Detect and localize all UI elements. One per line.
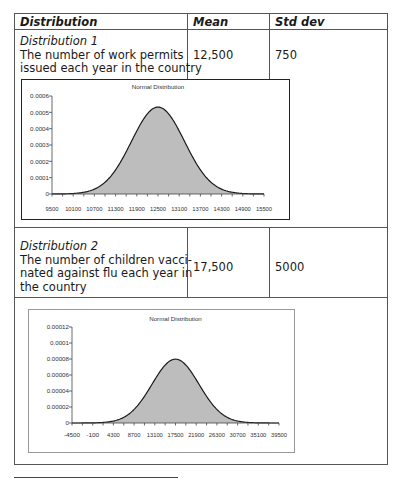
x-tick-label: -4500	[64, 431, 81, 438]
header-distribution: Distribution	[20, 15, 97, 29]
x-tick-label: -100	[86, 431, 99, 438]
header-mean: Mean	[193, 15, 228, 29]
distribution-area	[52, 107, 264, 194]
x-tick-label: 11300	[108, 205, 125, 212]
y-tick-label: 0.0003	[30, 141, 49, 148]
x-tick-label: 13700	[192, 205, 209, 212]
row-1-description: Distribution 1 The number of work permit…	[20, 35, 202, 76]
row-1-mean: 12,500	[193, 49, 233, 63]
row-divider	[15, 297, 387, 298]
x-tick-label: 11900	[129, 205, 146, 212]
x-tick-label: 14900	[235, 205, 252, 212]
y-tick-label: 0.00008	[47, 355, 70, 362]
normal-distribution-chart-1: Normal Distribution00.00010.00020.00030.…	[21, 79, 290, 220]
y-tick-label: 0.0002	[30, 158, 49, 165]
x-tick-label: 14300	[214, 205, 231, 212]
normal-distribution-chart-2: Normal Distribution00.000020.000040.0000…	[28, 309, 295, 453]
row-2-name: Distribution 2	[20, 239, 98, 253]
row-2-description: Distribution 2 The number of children va…	[20, 240, 192, 294]
x-tick-label: 26300	[209, 431, 226, 438]
x-tick-label: 13100	[147, 431, 164, 438]
x-tick-label: 17500	[167, 431, 184, 438]
x-tick-label: 10700	[86, 205, 103, 212]
y-tick-label: 0	[46, 190, 50, 197]
y-tick-label: 0.0006	[30, 92, 49, 99]
column-divider	[269, 14, 270, 79]
x-tick-label: 9500	[46, 205, 59, 212]
distribution-area	[72, 359, 279, 423]
column-divider	[269, 227, 270, 297]
x-tick-label: 21900	[188, 431, 205, 438]
chart-title: Normal Distribution	[149, 315, 202, 322]
x-tick-label: 4300	[107, 431, 120, 438]
y-tick-label: 0	[66, 419, 70, 426]
y-tick-label: 0.00012	[47, 323, 70, 330]
x-tick-label: 12500	[150, 205, 167, 212]
x-tick-label: 13100	[171, 205, 188, 212]
row-2-mean: 17,500	[193, 261, 233, 275]
y-tick-label: 0.0004	[30, 125, 49, 132]
y-tick-label: 0.0001	[50, 339, 69, 346]
row-1-name: Distribution 1	[20, 34, 98, 48]
y-tick-label: 0.0001	[30, 174, 49, 181]
row-2-std-dev: 5000	[275, 261, 304, 275]
y-tick-label: 0.00002	[47, 403, 70, 410]
x-tick-label: 10100	[65, 205, 82, 212]
y-tick-label: 0.0005	[30, 109, 49, 116]
x-tick-label: 39500	[271, 431, 288, 438]
header-std-dev: Std dev	[275, 15, 325, 29]
y-tick-label: 0.00006	[47, 371, 70, 378]
x-tick-label: 8700	[128, 431, 141, 438]
x-tick-label: 15500	[256, 205, 273, 212]
footnote-rule	[14, 477, 178, 478]
y-tick-label: 0.00004	[47, 387, 70, 394]
header-divider	[15, 29, 387, 30]
x-tick-label: 35100	[250, 431, 267, 438]
chart-title: Normal Distribution	[132, 83, 185, 90]
x-tick-label: 30700	[230, 431, 247, 438]
row-divider	[15, 227, 387, 228]
row-1-std-dev: 750	[275, 49, 297, 63]
